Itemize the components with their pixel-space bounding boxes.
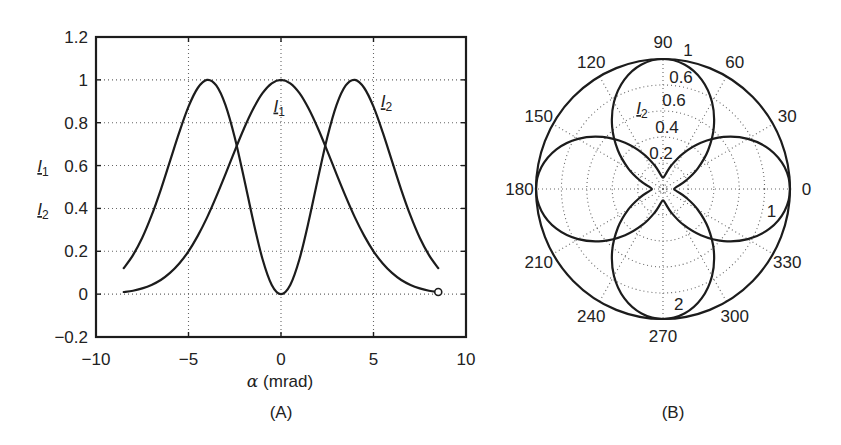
- y-tick-label: 0.6: [64, 157, 88, 176]
- y-axis-label-i2: I2: [37, 200, 49, 222]
- x-tick-label: 5: [369, 350, 378, 369]
- curve-label-i1: I1: [273, 97, 285, 119]
- radial-tick-label: 0.2: [649, 144, 673, 163]
- panel-caption-a: (A): [270, 403, 293, 422]
- x-tick-label: −10: [82, 350, 111, 369]
- angle-tick-label: 240: [577, 307, 605, 326]
- y-tick-label: 0.8: [64, 114, 88, 133]
- angle-tick-label: 120: [577, 53, 605, 72]
- polar-curve-label-1: 1: [767, 202, 776, 221]
- figure: −10−50510−0.200.20.40.60.811.2 I1I2 I1 I…: [0, 0, 841, 445]
- angle-tick-label: 270: [649, 327, 677, 346]
- angle-tick-label: 150: [525, 107, 553, 126]
- radial-tick-label: 0.6: [669, 68, 693, 87]
- angle-tick-label: 90: [654, 33, 673, 52]
- angle-tick-label: 210: [525, 253, 553, 272]
- panel-a-line-chart: −10−50510−0.200.20.40.60.811.2 I1I2 I1 I…: [37, 28, 475, 422]
- x-tick-label: 10: [457, 350, 476, 369]
- angle-tick-label: 330: [773, 253, 801, 272]
- radial-tick-label: 0.4: [655, 118, 679, 137]
- angle-tick-label: 30: [778, 107, 797, 126]
- y-tick-label: 1: [79, 71, 88, 90]
- curve-labels: 12: [674, 202, 776, 314]
- angle-tick-label: 300: [721, 307, 749, 326]
- panel-b-polar-chart: 0306090120150180210240270300330 0.20.40.…: [505, 33, 811, 422]
- curve-label-i2: I2: [381, 92, 393, 114]
- figure-canvas: −10−50510−0.200.20.40.60.811.2 I1I2 I1 I…: [0, 0, 841, 445]
- curve-end-marker: [435, 289, 442, 296]
- y-tick-label: −0.2: [54, 328, 88, 347]
- angle-tick-label: 180: [505, 180, 533, 199]
- polar-curve-label-2: 2: [674, 295, 683, 314]
- grid-lines: [96, 37, 466, 337]
- angle-tick-label: 60: [725, 53, 744, 72]
- y-tick-label: 0.4: [64, 199, 88, 218]
- radial-tick-label: 1: [683, 41, 692, 60]
- panel-caption-b: (B): [662, 403, 685, 422]
- x-tick-label: 0: [276, 350, 285, 369]
- angle-tick-label: 0: [802, 180, 811, 199]
- y-tick-label: 0.2: [64, 242, 88, 261]
- y-axis-label-i1: I1: [37, 157, 49, 179]
- radial-tick-label: 0.6: [662, 91, 686, 110]
- tick-labels: −10−50510−0.200.20.40.60.811.2: [54, 28, 475, 369]
- radial-axis-label-i2: I2: [636, 99, 648, 121]
- x-tick-label: −5: [179, 350, 198, 369]
- y-tick-label: 0: [79, 285, 88, 304]
- y-tick-label: 1.2: [64, 28, 88, 47]
- x-axis-label: α (mrad): [247, 371, 313, 391]
